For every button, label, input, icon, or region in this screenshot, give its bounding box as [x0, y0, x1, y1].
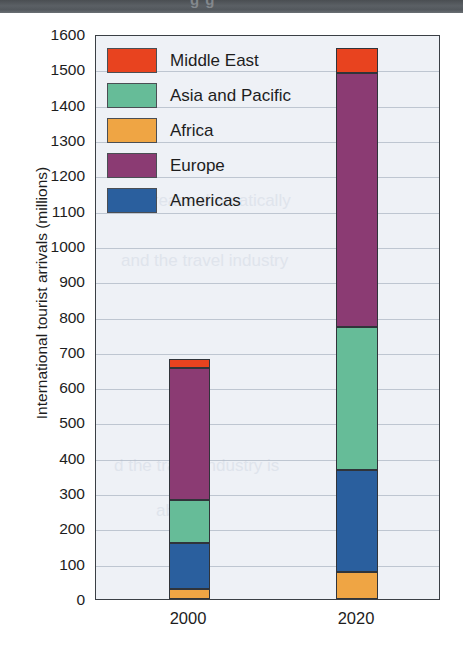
- bar-segment-middle-east[interactable]: [169, 359, 210, 368]
- legend-item-label: Africa: [170, 121, 213, 141]
- y-axis-tick-label: 1000: [25, 239, 85, 255]
- y-axis-tick-label: 1400: [25, 98, 85, 114]
- bar-segment-europe[interactable]: [169, 368, 210, 500]
- legend-item-middle-east[interactable]: Middle East: [107, 43, 317, 78]
- gridline: [96, 283, 439, 284]
- y-axis-tick-label: 800: [25, 310, 85, 326]
- gridline: [96, 248, 439, 249]
- bar-segment-africa[interactable]: [169, 589, 210, 599]
- legend-item-label: Americas: [170, 191, 241, 211]
- gridline: [96, 319, 439, 320]
- bar-segment-asia-and-pacific[interactable]: [169, 500, 210, 542]
- gridline: [96, 424, 439, 425]
- y-axis-tick-label: 1200: [25, 168, 85, 184]
- gridline: [96, 530, 439, 531]
- y-axis-tick-label: 100: [25, 557, 85, 573]
- legend-swatch-icon: [107, 188, 157, 213]
- gridline: [96, 566, 439, 567]
- y-axis-tick-label: 200: [25, 521, 85, 537]
- y-axis-tick-label: 1100: [25, 204, 85, 220]
- legend-item-americas[interactable]: Americas: [107, 183, 317, 218]
- legend-item-africa[interactable]: Africa: [107, 113, 317, 148]
- legend-swatch-icon: [107, 118, 157, 143]
- bar-segment-americas[interactable]: [169, 543, 210, 590]
- legend-item-label: Asia and Pacific: [170, 86, 291, 106]
- bar-segment-americas[interactable]: [336, 470, 378, 572]
- scan-band-partial-text: g g: [190, 0, 216, 8]
- bar-segment-asia-and-pacific[interactable]: [336, 327, 378, 470]
- bar-2020[interactable]: [336, 35, 378, 599]
- legend-swatch-icon: [107, 153, 157, 178]
- y-axis-tick-label: 1500: [25, 62, 85, 78]
- y-axis-tick-label: 1600: [25, 27, 85, 43]
- y-axis-tick-label: 400: [25, 451, 85, 467]
- gridline: [96, 460, 439, 461]
- y-axis-tick-label: 300: [25, 486, 85, 502]
- y-axis-tick-label: 0: [25, 592, 85, 608]
- y-axis-tick-label: 600: [25, 380, 85, 396]
- bar-segment-middle-east[interactable]: [336, 48, 378, 73]
- bar-segment-africa[interactable]: [336, 572, 378, 599]
- scanned-page-edge-band: g g: [0, 0, 463, 13]
- gridline: [96, 389, 439, 390]
- legend-swatch-icon: [107, 48, 157, 73]
- legend: Middle EastAsia and PacificAfricaEuropeA…: [107, 43, 317, 218]
- gridline: [96, 354, 439, 355]
- legend-item-asia-and-pacific[interactable]: Asia and Pacific: [107, 78, 317, 113]
- x-axis-tick-label: 2000: [133, 609, 243, 628]
- y-axis-tick-label: 900: [25, 274, 85, 290]
- y-axis-tick-label: 1300: [25, 133, 85, 149]
- legend-item-label: Europe: [170, 156, 225, 176]
- legend-swatch-icon: [107, 83, 157, 108]
- legend-item-europe[interactable]: Europe: [107, 148, 317, 183]
- bar-segment-europe[interactable]: [336, 73, 378, 327]
- x-axis-tick-label: 2020: [301, 609, 411, 628]
- y-axis-tick-label: 700: [25, 345, 85, 361]
- gridline: [96, 495, 439, 496]
- y-axis-tick-label: 500: [25, 415, 85, 431]
- stacked-bar-chart: International tourist arrivals (millions…: [0, 13, 463, 646]
- legend-item-label: Middle East: [170, 51, 259, 71]
